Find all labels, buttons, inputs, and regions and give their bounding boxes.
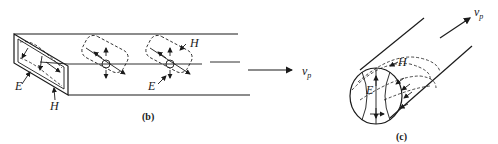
e-field-label-c: E <box>365 83 374 97</box>
e-field-label-b: E <box>14 79 23 93</box>
rectangular-waveguide: vp E H H E (b) <box>14 33 311 123</box>
velocity-label-c: vp <box>474 5 483 21</box>
velocity-label-b: vp <box>302 64 311 80</box>
circular-waveguide: vp H E (c) <box>350 5 483 143</box>
e-field-label-b2: E <box>147 79 156 93</box>
waveguide-diagram: vp E H H E (b) vp <box>0 0 498 144</box>
propagation-arrow-c <box>440 18 470 38</box>
h-field-label-b2: H <box>189 36 200 50</box>
field-loop-2 <box>143 33 195 78</box>
caption-c: (c) <box>396 131 407 143</box>
h-field-label-b: H <box>49 99 60 113</box>
field-loop-1 <box>79 33 131 78</box>
h-field-label-c: H <box>397 55 408 69</box>
caption-b: (b) <box>142 111 154 123</box>
